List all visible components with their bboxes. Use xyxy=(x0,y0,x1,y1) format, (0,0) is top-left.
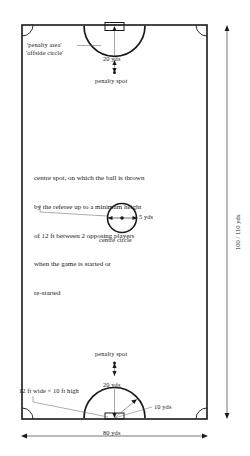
bottom-twenty-yds-label: 20 yds xyxy=(103,381,120,389)
centre-note-line-4: when the game is started or xyxy=(34,260,144,270)
pitch-length-label: 100 / 110 yds xyxy=(234,215,241,250)
bottom-penalty-arrow-up xyxy=(112,363,116,368)
goal-size-label: 12 ft wide × 10 ft high xyxy=(19,387,79,395)
bottom-arc-arrow-down xyxy=(112,413,116,418)
goal-size-leader-d xyxy=(33,402,108,417)
bottom-left-corner-arc xyxy=(22,408,33,419)
centre-note-line-2: by the referee up to a minimum height xyxy=(34,203,144,213)
five-yds-label: 5 yds xyxy=(139,213,153,221)
top-penalty-spot-label: penalty spot xyxy=(95,77,127,85)
length-arrow-top xyxy=(225,25,230,31)
bottom-penalty-arrow-down xyxy=(112,371,116,376)
pitch-width-label: 80 yds xyxy=(103,429,120,437)
bottom-penalty-spot-label: penalty spot xyxy=(95,350,127,358)
top-right-corner-arc xyxy=(196,25,207,36)
centre-circle-label: centre circle xyxy=(99,236,132,244)
centre-note-line-1: centre spot, on which the ball is thrown xyxy=(34,174,144,184)
length-arrow-bottom xyxy=(225,413,230,419)
offside-circle-label: 'offside circle' xyxy=(26,49,63,57)
field-diagram: 'penalty area' 'offside circle' 20 yds p… xyxy=(0,0,250,456)
top-twenty-yds-label: 20 yds xyxy=(103,55,120,63)
ten-yds-label: 10 yds xyxy=(154,403,171,411)
top-arc-arrow-up xyxy=(112,26,116,31)
top-left-corner-arc xyxy=(22,25,33,36)
centre-note-line-5: re-started xyxy=(34,289,144,299)
width-arrow-right xyxy=(202,434,208,439)
top-penalty-spot-dot xyxy=(113,71,116,74)
bottom-right-corner-arc xyxy=(196,408,207,419)
ten-yds-radius-line xyxy=(115,400,137,418)
width-arrow-left xyxy=(21,434,27,439)
penalty-area-label: 'penalty area' xyxy=(27,41,62,49)
